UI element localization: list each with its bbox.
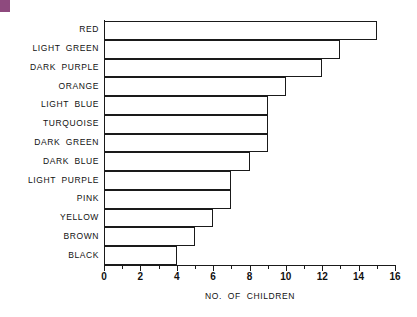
category-label: ORANGE [59,82,99,91]
category-label: DARK BLUE [43,157,99,166]
bar [104,40,340,59]
category-label: LIGHT PURPLE [28,176,99,185]
category-label: DARK GREEN [34,138,99,147]
category-label: BROWN [63,232,99,241]
bar [104,59,322,78]
bar [104,209,213,228]
category-label: YELLOW [60,213,99,222]
category-label: LIGHT BLUE [41,100,99,109]
category-label: PINK [77,194,99,203]
x-tick-minor [231,266,232,269]
bar [104,171,231,190]
x-tick-minor [159,266,160,269]
bar-chart: REDLIGHT GREENDARK PURPLEORANGELIGHT BLU… [0,0,417,317]
category-label: TURQUOISE [43,119,99,128]
x-tick-label: 0 [101,272,107,282]
x-axis-title: NO. OF CHILDREN [104,291,396,301]
bar [104,190,231,209]
x-tick-label: 14 [353,272,364,282]
x-tick-label: 10 [280,272,291,282]
x-tick-minor [340,266,341,269]
bar [104,115,268,134]
x-tick-minor [268,266,269,269]
bar [104,77,286,96]
bar [104,96,268,115]
x-tick-minor [304,266,305,269]
plot-area [104,21,395,265]
bar [104,21,377,40]
bar [104,227,195,246]
bar [104,152,250,171]
x-tick-label: 2 [138,272,144,282]
x-tick-label: 6 [210,272,216,282]
category-label: LIGHT GREEN [32,44,99,53]
x-tick-minor [122,266,123,269]
bar [104,134,268,153]
x-tick-label: 4 [174,272,180,282]
y-axis-line [104,20,105,266]
x-tick-minor [195,266,196,269]
category-label-column: REDLIGHT GREENDARK PURPLEORANGELIGHT BLU… [0,0,99,280]
x-tick-label: 8 [247,272,253,282]
category-label: RED [79,25,99,34]
x-tick-label: 12 [317,272,328,282]
category-label: DARK PURPLE [30,63,99,72]
x-tick-label: 16 [389,272,400,282]
bar [104,246,177,265]
category-label: BLACK [68,251,99,260]
x-tick-minor [377,266,378,269]
